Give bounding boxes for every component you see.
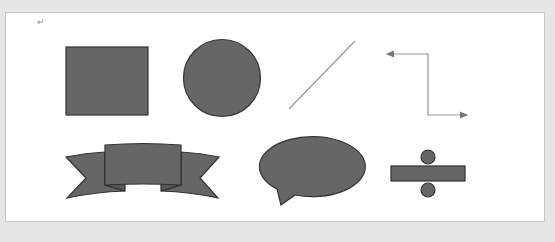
rectangle-shape[interactable] xyxy=(66,47,148,115)
line-shape[interactable] xyxy=(289,41,355,109)
division-sign-shape[interactable] xyxy=(391,150,465,197)
ribbon-banner-shape[interactable] xyxy=(66,144,219,199)
shapes-canvas xyxy=(0,0,555,242)
circle-shape[interactable] xyxy=(184,40,261,117)
speech-bubble-shape[interactable] xyxy=(259,137,365,205)
elbow-connector-shape[interactable] xyxy=(426,54,467,115)
